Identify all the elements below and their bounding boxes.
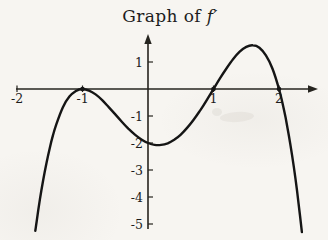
x-tick-label: -2 — [11, 91, 23, 106]
y-tick-label: -5 — [131, 217, 143, 232]
graph-canvas: -2-1121-1-2-3-4-5 Graph of f′ — [0, 0, 328, 240]
y-axis-arrow-icon — [144, 34, 151, 44]
x-axis-arrow-icon — [308, 85, 318, 93]
y-tick-label: -1 — [131, 109, 143, 124]
zero-point-dot — [211, 87, 216, 92]
derivative-curve — [35, 45, 302, 232]
figure-title: Graph of f′ — [122, 6, 218, 26]
figure-title-math: f′ — [205, 6, 218, 26]
scan-smudge — [220, 111, 255, 123]
scan-smudge — [212, 108, 222, 116]
y-tick-label: -4 — [131, 190, 143, 205]
plot-area: -2-1121-1-2-3-4-5 — [11, 34, 318, 232]
y-tick-label: 1 — [135, 55, 143, 70]
y-tick-label: -2 — [131, 136, 143, 151]
zero-point-dot — [277, 87, 282, 92]
scanned-figure-page: -2-1121-1-2-3-4-5 Graph of f′ — [0, 0, 328, 240]
x-tick-label: -1 — [76, 91, 88, 106]
figure-title-text: Graph of — [122, 6, 207, 26]
y-tick-label: -3 — [131, 163, 143, 178]
zero-point-dot — [80, 87, 85, 92]
